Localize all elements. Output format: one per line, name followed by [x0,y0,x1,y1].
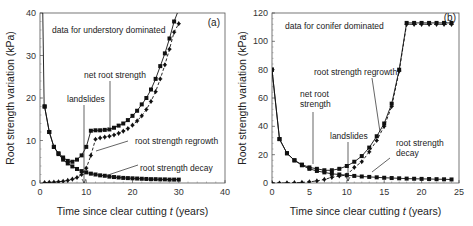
data-point [300,163,304,167]
x-axis-title: Time since clear cutting t (years) [290,205,441,217]
data-point [94,128,98,132]
x-tick-label: 0 [37,187,42,197]
data-point [307,167,311,171]
panel-subtitle: data for conifer dominated [285,21,384,31]
annotation-label: landslides [67,94,105,104]
data-point [98,173,102,177]
data-point [57,152,61,156]
data-point [66,161,70,165]
x-tick-label: 40 [220,187,230,197]
annotation-label: strength [300,99,331,109]
y-tick-label: 40 [26,8,36,18]
y-tick-label: 30 [26,51,36,61]
data-point [375,134,379,138]
data-point [89,129,93,133]
data-point [131,176,135,180]
data-point [43,105,47,109]
data-point [70,160,74,164]
data-point [135,177,139,181]
data-point [140,102,144,106]
data-point [84,145,88,149]
data-point [117,175,121,179]
data-point [84,170,88,174]
data-point [420,177,424,181]
data-point [52,145,56,149]
y-tick-label: 0 [263,178,268,188]
data-point [330,168,334,172]
y-tick-label: 100 [253,36,268,46]
x-axis-title: Time since clear cutting t (years) [57,205,208,217]
data-point [163,177,167,181]
x-tick-label: 5 [307,187,312,197]
annotation-label: root strength [396,138,444,148]
data-point [149,88,153,92]
annotation-label: decay [396,148,419,158]
data-point [107,127,111,131]
data-point [117,124,121,128]
panel-subtitle: data for understory dominated [52,25,166,35]
data-point [80,153,84,157]
x-tick-label: 10 [342,187,352,197]
annotation-leader [372,78,380,132]
data-point [270,68,274,72]
x-tick-label: 20 [127,187,137,197]
data-point [121,122,125,126]
data-point [135,109,139,113]
annotation-leader [96,141,128,151]
data-point [144,177,148,181]
y-tick-label: 20 [26,93,36,103]
chart-figure: 010203040010203040Time since clear cutti… [0,0,473,226]
data-point [112,175,116,179]
panel-label: (a) [208,17,220,28]
data-point [168,37,172,41]
x-tick-label: 20 [417,187,427,197]
data-point [131,114,135,118]
x-tick-label: 10 [81,187,91,197]
data-point [75,158,79,162]
data-point [168,178,172,182]
data-point [103,128,107,132]
y-tick-label: 20 [258,150,268,160]
data-point [154,77,158,81]
data-point [75,167,79,171]
x-tick-label: 30 [174,187,184,197]
data-point [158,64,162,68]
data-point [112,126,116,130]
y-tick-label: 0 [31,178,36,188]
data-point [352,160,356,164]
annotation-label: net root strength [84,70,146,80]
annotation-label: root strength decay [140,163,214,173]
y-axis-title: Root strength variation (kPa) [4,31,16,165]
data-point [315,169,319,173]
data-point [47,130,51,134]
y-tick-label: 120 [253,8,268,18]
data-point [61,158,65,162]
data-point [285,151,289,155]
data-point [277,137,281,141]
data-point [397,176,401,180]
y-axis-title: Root strength variation (kPa) [236,31,248,165]
data-point [337,167,341,171]
x-tick-label: 25 [454,187,464,197]
data-point [140,177,144,181]
data-point [292,158,296,162]
data-point [98,128,102,132]
annotation-label: root strength regrowth [314,67,397,77]
data-point [330,172,334,176]
data-point [390,176,394,180]
data-point [337,173,341,177]
data-point [144,96,148,100]
data-point [450,177,454,181]
data-point [435,177,439,181]
data-point [154,177,158,181]
data-point [360,154,364,158]
series-group [42,13,181,185]
panel-b: 0510152025020406080100120Time since clea… [236,8,464,217]
data-point [382,176,386,180]
data-point [70,164,74,168]
data-point [80,169,84,173]
data-point [158,177,162,181]
annotation-label: landslides [330,131,368,141]
data-point [360,174,364,178]
data-point [89,172,93,176]
